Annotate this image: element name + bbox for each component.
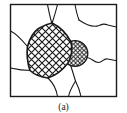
microstructure-figure: (a): [0, 0, 127, 113]
grain-diagram-canvas: (a): [0, 0, 127, 113]
figure-label: (a): [58, 102, 69, 113]
